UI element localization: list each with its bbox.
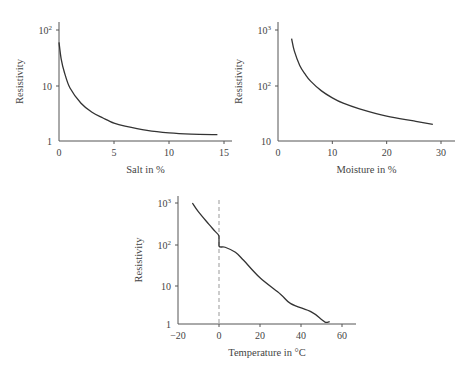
resistivity-curve <box>292 39 433 125</box>
y-tick-label: 103 <box>158 197 172 209</box>
chart-1: 051015110102Salt in %Resistivity <box>14 22 232 175</box>
y-tick-label: 1 <box>166 319 171 330</box>
y-axis-label: Resistivity <box>133 237 144 283</box>
y-tick-label: 102 <box>158 239 172 251</box>
x-tick-label: 20 <box>255 330 265 341</box>
x-axis-label: Temperature in °C <box>228 347 306 358</box>
resistivity-curve <box>59 42 217 134</box>
y-axis-label: Resistivity <box>14 58 25 104</box>
x-axis-label: Salt in % <box>126 164 165 175</box>
y-axis-label: Resistivity <box>233 58 244 104</box>
y-tick-label: 103 <box>258 24 272 36</box>
x-tick-label: 30 <box>436 147 446 158</box>
y-tick-label: 102 <box>39 24 53 36</box>
y-tick-label: 10 <box>42 81 52 92</box>
chart-2: 010203010102103Moisture in %Resistivity <box>233 22 455 175</box>
x-axis-label: Moisture in % <box>336 164 396 175</box>
resistivity-curve <box>192 203 329 322</box>
x-tick-label: 0 <box>57 147 62 158</box>
x-tick-label: 0 <box>217 330 222 341</box>
x-tick-label: 10 <box>164 147 174 158</box>
x-tick-label: 5 <box>112 147 117 158</box>
y-tick-label: 1 <box>47 136 52 147</box>
chart-3: −200204060110102103Temperature in °CResi… <box>133 196 356 358</box>
x-tick-label: 15 <box>219 147 229 158</box>
y-tick-label: 10 <box>261 136 271 147</box>
x-tick-label: 40 <box>296 330 306 341</box>
x-tick-label: −20 <box>170 330 186 341</box>
resistivity-figure: 051015110102Salt in %Resistivity01020301… <box>0 0 475 371</box>
x-tick-label: 20 <box>382 147 392 158</box>
x-tick-label: 60 <box>337 330 347 341</box>
x-tick-label: 0 <box>276 147 281 158</box>
y-tick-label: 10 <box>161 281 171 292</box>
x-tick-label: 10 <box>327 147 337 158</box>
y-tick-label: 102 <box>258 80 272 92</box>
